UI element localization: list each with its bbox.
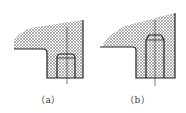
diagram-canvas (0, 0, 186, 113)
caption-a: （a） (36, 93, 61, 106)
caption-b: （b） (125, 93, 150, 106)
figure-b (100, 13, 175, 86)
figure-a (14, 20, 83, 84)
